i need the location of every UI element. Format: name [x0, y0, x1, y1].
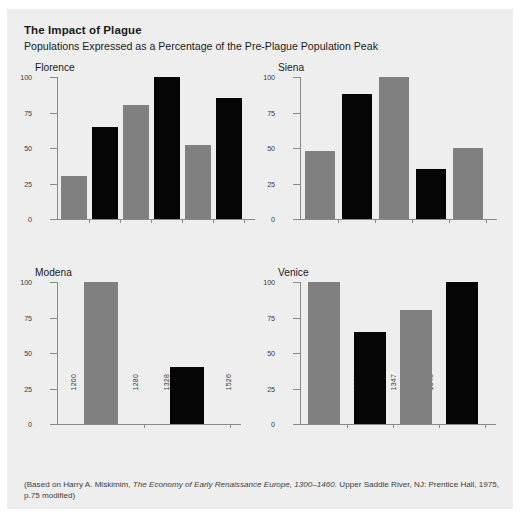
- bar-slot: [144, 282, 230, 424]
- bar[interactable]: [400, 310, 432, 424]
- x-axis: [57, 219, 255, 220]
- y-tick-label: 25: [267, 384, 275, 393]
- chart-panel-modena: Modena 025507510013061482: [22, 266, 267, 466]
- y-tick: 0: [35, 424, 58, 425]
- chart-panel-siena: Siena 025507510012501328134713481520: [265, 61, 510, 261]
- x-tick-mark: [144, 424, 145, 428]
- source-text-a: (Based on Harry A. Miskimim,: [24, 480, 133, 489]
- y-tick: 75: [278, 318, 301, 319]
- y-tick: 75: [35, 113, 58, 114]
- chart-panel-venice: Venice 02550751001338135214421509: [265, 266, 510, 466]
- y-tick-mark: [293, 318, 301, 319]
- y-tick-label: 100: [263, 73, 275, 82]
- bar[interactable]: [154, 77, 180, 219]
- bar-slot: [449, 77, 486, 219]
- y-tick: 50: [35, 353, 58, 354]
- bar[interactable]: [354, 332, 386, 424]
- source-text-title: The Economy of Early Renaissance Europe,…: [133, 480, 337, 489]
- x-tick-mark: [486, 219, 487, 223]
- bar-slot: [301, 77, 338, 219]
- source-text-c: Upper Saddle River, NJ: Prentice Hall,: [337, 480, 476, 489]
- y-tick-label: 0: [271, 215, 275, 224]
- chart-title-modena: Modena: [35, 266, 267, 279]
- figure-title: The Impact of Plague: [24, 23, 513, 38]
- bar-slot: [412, 77, 449, 219]
- bar[interactable]: [216, 98, 242, 219]
- bar[interactable]: [416, 169, 446, 219]
- x-axis: [300, 424, 496, 425]
- figure-panel: The Impact of Plague Populations Express…: [7, 9, 513, 509]
- y-tick-label: 0: [271, 420, 275, 429]
- y-tick: 50: [278, 353, 301, 354]
- figure-header: The Impact of Plague Populations Express…: [7, 9, 513, 54]
- y-tick-mark: [293, 282, 301, 283]
- plot-area-florence: 0255075100120012401280132813511526: [35, 77, 263, 253]
- bar[interactable]: [185, 145, 211, 219]
- y-tick-mark: [50, 353, 58, 354]
- y-tick-mark: [293, 184, 301, 185]
- bar-slot: [439, 282, 485, 424]
- y-tick-mark: [293, 77, 301, 78]
- x-tick-mark: [89, 219, 90, 223]
- y-tick-label: 25: [24, 384, 32, 393]
- y-tick-label: 0: [28, 215, 32, 224]
- bar-slot: [393, 282, 439, 424]
- bar[interactable]: [379, 77, 409, 219]
- bar[interactable]: [92, 127, 118, 219]
- y-tick-mark: [50, 389, 58, 390]
- x-tick-mark: [213, 219, 214, 223]
- y-tick-label: 50: [267, 349, 275, 358]
- plot-area-venice: 02550751001338135214421509: [278, 282, 506, 458]
- y-tick: 25: [35, 184, 58, 185]
- chart-title-siena: Siena: [278, 61, 510, 74]
- y-tick-mark: [293, 148, 301, 149]
- bar[interactable]: [61, 176, 87, 219]
- bar[interactable]: [84, 282, 118, 424]
- y-tick-label: 75: [24, 108, 32, 117]
- x-tick-mark: [230, 424, 231, 428]
- x-tick-mark: [347, 424, 348, 428]
- y-tick: 50: [35, 148, 58, 149]
- y-tick-label: 75: [24, 313, 32, 322]
- x-tick-mark: [439, 424, 440, 428]
- bar[interactable]: [170, 367, 204, 424]
- y-tick: 25: [35, 389, 58, 390]
- bar[interactable]: [342, 94, 372, 219]
- bar[interactable]: [305, 151, 335, 219]
- y-tick-mark: [50, 77, 58, 78]
- bar-slot: [58, 282, 144, 424]
- chart-grid: Florence 0255075100120012401280132813511…: [7, 61, 513, 471]
- y-tick-label: 100: [263, 278, 275, 287]
- y-tick-label: 50: [24, 144, 32, 153]
- y-tick: 100: [35, 282, 58, 283]
- bar[interactable]: [446, 282, 478, 424]
- y-tick: 75: [35, 318, 58, 319]
- bar[interactable]: [453, 148, 483, 219]
- x-tick-mark: [412, 219, 413, 223]
- bar-slot: [182, 77, 213, 219]
- y-tick: 25: [278, 184, 301, 185]
- plot-area-siena: 025507510012501328134713481520: [278, 77, 506, 253]
- y-tick: 100: [35, 77, 58, 78]
- y-tick-label: 75: [267, 108, 275, 117]
- bar[interactable]: [308, 282, 340, 424]
- bar[interactable]: [123, 105, 149, 219]
- x-tick-mark: [375, 219, 376, 223]
- chart-title-venice: Venice: [278, 266, 510, 279]
- bar-slot: [89, 77, 120, 219]
- y-tick: 100: [278, 282, 301, 283]
- bar-series: [301, 282, 485, 424]
- bar-slot: [120, 77, 151, 219]
- x-tick-mark: [338, 219, 339, 223]
- bar-series: [301, 77, 486, 219]
- x-tick-mark: [449, 219, 450, 223]
- x-tick-mark: [393, 424, 394, 428]
- y-tick-mark: [293, 353, 301, 354]
- bar-slot: [347, 282, 393, 424]
- chart-title-florence: Florence: [35, 61, 267, 74]
- y-tick: 75: [278, 113, 301, 114]
- y-tick-label: 100: [20, 73, 32, 82]
- x-axis: [300, 219, 497, 220]
- bar-slot: [151, 77, 182, 219]
- figure-subtitle: Populations Expressed as a Percentage of…: [24, 39, 513, 54]
